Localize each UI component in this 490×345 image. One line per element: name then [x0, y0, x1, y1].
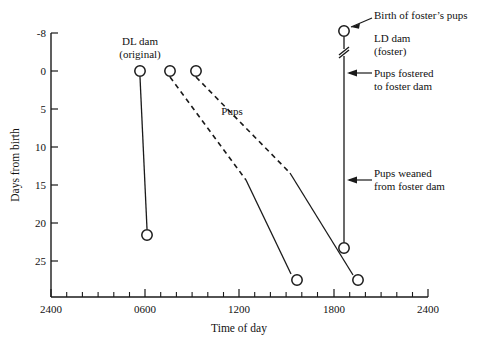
- y-ticklabel-20: 20: [35, 217, 47, 229]
- ld-dam-point-birth: [339, 26, 349, 36]
- y-ticklabel--8: -8: [37, 27, 47, 39]
- pups-right-point-end: [353, 275, 363, 285]
- annotation-pups-fostered: Pups fostered to foster dam: [347, 67, 434, 92]
- annotation-fostered-line2: to foster dam: [374, 80, 432, 92]
- series-ld-dam-foster: [339, 26, 349, 253]
- annotation-dl-dam-line1: DL dam: [122, 35, 158, 47]
- annotation-dl-dam-line2: (original): [119, 48, 161, 61]
- y-ticklabel-25: 25: [35, 255, 47, 267]
- series-dl-dam-original: [135, 66, 152, 240]
- pups-left-solid-segment: [246, 180, 291, 274]
- annotation-dl-dam: DL dam (original): [119, 35, 161, 61]
- y-ticklabel-0: 0: [41, 65, 47, 77]
- pups-left-dashed-segment: [170, 77, 246, 180]
- series-pups-right: [191, 66, 363, 285]
- y-axis: -8 0 5 10 15 20 25 Days from birth: [9, 27, 58, 297]
- annotation-fostered-line1: Pups fostered: [374, 67, 434, 79]
- ld-dam-point-end: [339, 243, 349, 253]
- annotation-weaned-arrowhead-icon: [347, 177, 357, 184]
- x-ticklabel-2400-right: 2400: [417, 303, 440, 315]
- x-axis-title: Time of day: [211, 322, 267, 335]
- annotation-fostered-arrowhead-icon: [347, 70, 357, 77]
- annotation-pups-weaned: Pups weaned from foster dam: [347, 167, 445, 192]
- pups-right-point-start: [191, 66, 201, 76]
- annotation-birth-leader: [351, 18, 372, 27]
- rat-dam-pup-activity-chart: -8 0 5 10 15 20 25 Days from birth: [0, 0, 490, 345]
- dl-dam-point-start: [135, 66, 145, 76]
- annotation-ld-dam: LD dam (foster): [374, 32, 411, 58]
- pups-left-point-end: [292, 275, 302, 285]
- x-ticklabel-1200: 1200: [228, 303, 251, 315]
- y-axis-title: Days from birth: [9, 128, 22, 202]
- y-ticklabel-15: 15: [35, 179, 47, 191]
- chart-container: -8 0 5 10 15 20 25 Days from birth: [0, 0, 490, 345]
- x-ticklabel-2400-left: 2400: [40, 303, 63, 315]
- annotation-ld-dam-line2: (foster): [374, 45, 407, 58]
- x-ticklabel-1800: 1800: [323, 303, 346, 315]
- annotation-birth-foster-pups: Birth of foster’s pups: [351, 9, 468, 29]
- x-axis: 2400 0600 1200 1800 2400 Time of day: [40, 289, 440, 335]
- dl-dam-point-end: [142, 230, 152, 240]
- x-ticklabel-0600: 0600: [134, 303, 157, 315]
- series-pups-left: [165, 66, 302, 285]
- annotation-ld-dam-line1: LD dam: [374, 32, 411, 44]
- annotation-birth-text: Birth of foster’s pups: [374, 9, 468, 21]
- annotation-pups-label: Pups: [221, 105, 242, 117]
- pups-right-dashed-segment: [196, 77, 290, 173]
- annotation-pups: Pups: [221, 105, 242, 117]
- annotation-weaned-line1: Pups weaned: [374, 167, 432, 179]
- y-ticklabel-10: 10: [35, 141, 47, 153]
- dl-dam-line: [140, 77, 147, 229]
- pups-left-point-start: [165, 66, 175, 76]
- y-ticklabel-5: 5: [41, 103, 47, 115]
- annotation-weaned-line2: from foster dam: [374, 180, 445, 192]
